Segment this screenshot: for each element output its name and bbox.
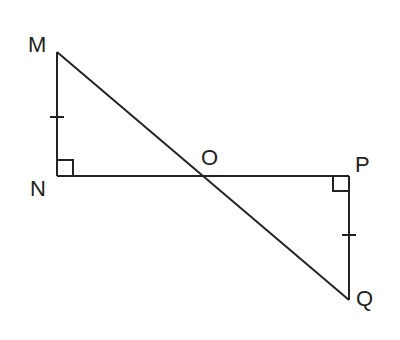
label-q: Q [356, 286, 373, 311]
right-angle-marker-p [333, 176, 349, 191]
geometry-diagram: M N O P Q [0, 0, 400, 340]
right-angle-marker-n [57, 160, 73, 176]
label-n: N [30, 176, 46, 201]
label-p: P [355, 152, 370, 177]
label-m: M [28, 32, 46, 57]
label-o: O [201, 145, 218, 170]
